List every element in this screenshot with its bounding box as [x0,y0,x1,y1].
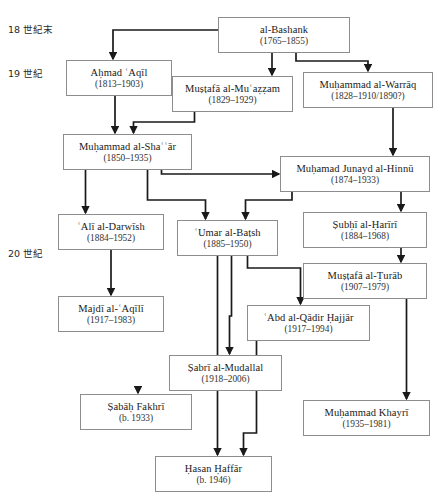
person-dates: (1907–1979) [341,282,389,292]
person-dates: (1917–1983) [87,315,135,325]
person-dates: (1918–2006) [201,374,249,384]
edge-umar-batsh-to-sabri-mudallal [230,256,232,354]
person-node-muhammad-warraq[interactable]: Muḥammad al-Warrāq(1828–1910/1890?) [303,72,433,108]
person-dates: (1874–1933) [331,175,379,185]
person-node-abd-qadir-hajjar[interactable]: ʿAbd al-Qādir Ḥajjār(1917–1994) [247,305,370,341]
person-name: Aḥmad ʿAqīl [91,67,148,78]
era-label-era-20: 20 世紀 [8,246,43,260]
person-dates: (b. 1946) [196,475,230,485]
person-dates: (1885–1950) [203,239,251,249]
person-name: Muṣṭafā al-Muʿaẓẓam [185,83,280,94]
edge-al-bashank-to-ahmad-aqil [113,30,218,59]
person-dates: (1884–1952) [87,233,135,243]
person-name: Majdī al-ʿAqīlī [78,303,143,314]
person-node-sabah-fakhri[interactable]: Ṣabāḥ Fakhrī(b. 1933) [80,394,192,430]
person-dates: (1828–1910/1890?) [331,91,404,101]
person-dates: (1829–1929) [208,95,256,105]
person-dates: (1850–1935) [103,153,151,163]
person-node-subhi-hariri[interactable]: Ṣubḥī al-Ḥarīrī(1884–1968) [303,212,427,248]
edge-muhammad-shaar-to-umar-batsh [148,170,206,219]
person-node-hasan-haffar[interactable]: Ḥasan Ḥaffār(b. 1946) [155,456,272,492]
person-dates: (1917–1994) [284,324,332,334]
era-label-era-18: 18 世紀末 [8,22,53,36]
person-node-muhamad-hinnu[interactable]: Muḥamad Junayd al-Hinnū(1874–1933) [280,156,430,192]
person-node-sabri-mudallal[interactable]: Ṣabrī al-Mudallal(1918–2006) [169,355,282,391]
person-node-mustafa-turab[interactable]: Muṣṭafā al-Ṭurāb(1907–1979) [303,263,427,299]
person-name: al-Bashank [260,24,308,35]
person-dates: (1935–1981) [342,419,390,429]
person-name: Muḥammad al-Warrāq [320,79,417,90]
person-name: Muḥamad Junayd al-Hinnū [296,163,413,174]
person-name: Ṣubḥī al-Ḥarīrī [333,219,398,230]
person-node-muhammad-khayri[interactable]: Muḥammad Khayrī(1935–1981) [303,400,430,436]
genealogy-diagram: 18 世紀末19 世紀20 世紀al-Bashank(1765–1855)Aḥm… [0,0,440,497]
person-node-majdi-aqili[interactable]: Majdī al-ʿAqīlī(1917–1983) [58,296,164,332]
person-name: Muḥammad al-Shaʿʿār [79,141,176,152]
person-node-ali-darwish[interactable]: ʿAlī al-Darwīsh(1884–1952) [58,214,164,250]
edge-muhamad-hinnu-to-umar-batsh [246,192,293,219]
edge-mustafa-muazzam-to-muhammad-shaar [134,112,195,133]
edge-muhammad-shaar-to-muhamad-hinnu [162,170,280,174]
person-node-al-bashank[interactable]: al-Bashank(1765–1855) [218,17,350,53]
person-name: ʿAlī al-Darwīsh [77,221,145,232]
person-dates: (1765–1855) [260,36,308,46]
person-name: Muḥammad Khayrī [324,407,408,418]
person-node-mustafa-muazzam[interactable]: Muṣṭafā al-Muʿaẓẓam(1829–1929) [172,76,293,112]
person-name: Ṣabāḥ Fakhrī [108,401,165,412]
person-dates: (1813–1903) [95,79,143,89]
person-node-muhammad-shaar[interactable]: Muḥammad al-Shaʿʿār(1850–1935) [63,134,192,170]
person-name: ʿUmar al-Baṭsh [194,227,260,238]
person-name: Muṣṭafā al-Ṭurāb [328,270,403,281]
edge-umar-batsh-to-abd-qadir-hajjar [248,256,301,304]
person-name: Ḥasan Ḥaffār [185,463,242,474]
person-node-ahmad-aqil[interactable]: Aḥmad ʿAqīl(1813–1903) [66,60,172,96]
edge-al-bashank-to-muhammad-warraq [296,53,368,71]
person-name: Ṣabrī al-Mudallal [188,362,263,373]
person-name: ʿAbd al-Qādir Ḥajjār [263,312,353,323]
person-dates: (1884–1968) [341,231,389,241]
era-label-era-19: 19 世紀 [8,66,43,80]
person-dates: (b. 1933) [119,413,153,423]
person-node-umar-batsh[interactable]: ʿUmar al-Baṭsh(1885–1950) [177,220,278,256]
